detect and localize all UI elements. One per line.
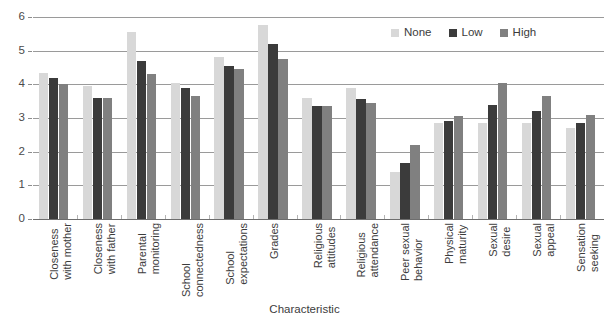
- bar-group: [253, 17, 297, 219]
- bar: [390, 172, 399, 219]
- category-label-line: attendance: [368, 223, 381, 277]
- y-axis-tick-mark: [28, 84, 32, 85]
- x-axis-category-label: Parentalmonitoring: [136, 223, 162, 274]
- bar-group: [516, 17, 560, 219]
- x-axis-category-labels: Closenesswith motherClosenesswith father…: [33, 221, 604, 299]
- bar: [93, 98, 102, 219]
- bar: [322, 106, 331, 219]
- bar-group: [209, 17, 253, 219]
- category-label-line: connectedness: [193, 223, 206, 297]
- bar: [532, 111, 541, 219]
- bar-group: [121, 17, 165, 219]
- bar: [312, 106, 321, 219]
- legend-swatch-icon: [500, 29, 508, 37]
- legend-item[interactable]: None: [391, 27, 432, 39]
- category-label-line: monitoring: [149, 223, 162, 274]
- bar: [181, 88, 190, 219]
- bar: [488, 105, 497, 219]
- bar: [356, 99, 365, 219]
- legend: NoneLowHigh: [391, 27, 536, 39]
- category-label-line: with father: [105, 223, 118, 274]
- category-label-line: Parental: [136, 233, 148, 274]
- x-axis-category-label: Religiousattitudes: [312, 223, 338, 268]
- bar: [83, 86, 92, 219]
- bar: [137, 61, 146, 219]
- bar: [400, 163, 409, 219]
- legend-label: High: [513, 27, 537, 39]
- bar: [478, 123, 487, 219]
- x-axis-category-label: Schoolexpectations: [224, 223, 250, 285]
- bar: [410, 145, 419, 219]
- category-label-line: Sexual: [531, 223, 543, 257]
- bar: [542, 96, 551, 219]
- plot-area: [33, 17, 604, 220]
- category-label-line: School: [180, 263, 192, 297]
- category-label-line: with mother: [61, 223, 74, 280]
- bar: [366, 103, 375, 219]
- x-axis-category-label: Sexualappeal: [531, 223, 557, 257]
- category-label-line: seeking: [588, 223, 601, 272]
- bar-group: [472, 17, 516, 219]
- bar-group: [384, 17, 428, 219]
- bar-group: [33, 17, 77, 219]
- x-axis-category-label: Religiousattendance: [355, 223, 381, 277]
- x-axis-category-label: Physicalmaturity: [443, 223, 469, 264]
- category-label-line: Grades: [268, 223, 280, 259]
- bar-group: [560, 17, 604, 219]
- x-axis-baseline: [33, 219, 604, 220]
- bar: [258, 25, 267, 219]
- bar: [498, 83, 507, 219]
- bar: [234, 69, 243, 219]
- category-label-line: Sensation: [575, 223, 587, 272]
- category-label-line: Religious: [355, 232, 367, 277]
- legend-swatch-icon: [449, 29, 457, 37]
- legend-swatch-icon: [391, 29, 399, 37]
- bar: [444, 121, 453, 219]
- bar: [214, 57, 223, 219]
- legend-item[interactable]: High: [500, 27, 537, 39]
- y-axis-tick-label: 0: [1, 213, 25, 225]
- bar: [434, 123, 443, 219]
- category-label-line: Religious: [312, 223, 324, 268]
- category-label-line: Physical: [443, 223, 455, 264]
- bar-group: [340, 17, 384, 219]
- category-label-line: Peer sexual: [399, 223, 411, 281]
- category-label-line: appeal: [544, 223, 557, 257]
- x-axis-category-label: Closenesswith father: [92, 223, 118, 274]
- bar: [59, 84, 68, 219]
- category-label-line: Closeness: [48, 229, 60, 280]
- category-label-line: expectations: [237, 223, 250, 285]
- category-label-line: Sexual: [487, 223, 499, 257]
- bar: [103, 98, 112, 219]
- category-label-line: behavior: [412, 223, 425, 281]
- legend-label: None: [404, 27, 432, 39]
- bar: [346, 88, 355, 219]
- y-axis-tick-mark: [28, 185, 32, 186]
- bar: [147, 74, 156, 219]
- category-label-line: attitudes: [324, 223, 337, 268]
- bar-group: [297, 17, 341, 219]
- category-label-line: School: [224, 251, 236, 285]
- y-axis-tick-mark: [28, 118, 32, 119]
- bar-group: [428, 17, 472, 219]
- category-label-line: maturity: [456, 223, 469, 264]
- y-axis-tick-label: 3: [1, 112, 25, 124]
- category-label-line: Closeness: [92, 223, 104, 274]
- y-axis-tick-mark: [28, 17, 32, 18]
- y-axis-tick-label: 6: [1, 11, 25, 23]
- legend-label: Low: [462, 27, 483, 39]
- x-axis-title: Characteristic: [0, 303, 609, 315]
- bar: [278, 59, 287, 219]
- bar: [191, 96, 200, 219]
- legend-item[interactable]: Low: [449, 27, 483, 39]
- y-axis-tick-label: 5: [1, 45, 25, 57]
- y-axis-tick-mark: [28, 51, 32, 52]
- bar-chart: 0123456 Closenesswith motherClosenesswit…: [0, 0, 609, 323]
- category-label-line: desire: [500, 223, 513, 257]
- x-axis-category-label: Grades: [268, 223, 281, 259]
- bar: [302, 98, 311, 219]
- bar: [566, 128, 575, 219]
- x-axis-category-label: Closenesswith mother: [48, 223, 74, 280]
- bar-group: [77, 17, 121, 219]
- bar: [49, 78, 58, 219]
